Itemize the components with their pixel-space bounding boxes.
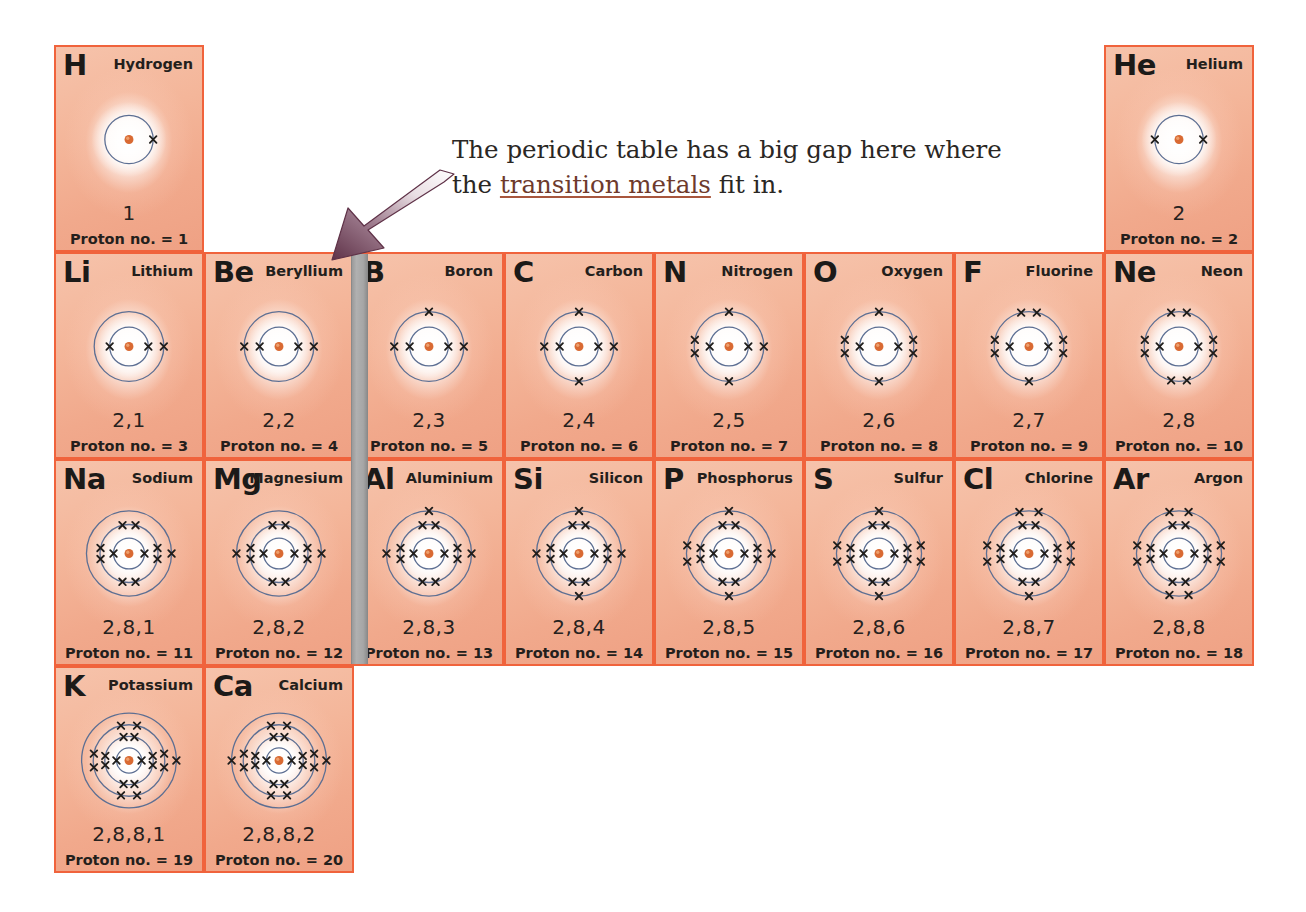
electron-shell-diagram <box>56 288 202 405</box>
electron-configuration: 2,8,4 <box>506 615 652 639</box>
annotation-text: The periodic table has a big gap here wh… <box>452 132 1052 202</box>
electron-shell-diagram <box>506 495 652 612</box>
element-cell-al[interactable]: AlAluminium2,8,3Proton no. = 13 <box>354 459 504 666</box>
electron-configuration: 2,8,7 <box>956 615 1102 639</box>
element-cell-p[interactable]: PPhosphorus2,8,5Proton no. = 15 <box>654 459 804 666</box>
electron-configuration: 2,8,2 <box>206 615 352 639</box>
proton-number: Proton no. = 11 <box>56 645 202 661</box>
pointer-arrow-icon <box>318 168 458 264</box>
element-name: Boron <box>445 263 493 279</box>
proton-number: Proton no. = 16 <box>806 645 952 661</box>
electron-shell-diagram <box>956 288 1102 405</box>
element-cell-si[interactable]: SiSilicon2,8,4Proton no. = 14 <box>504 459 654 666</box>
proton-number: Proton no. = 7 <box>656 438 802 454</box>
electron-configuration: 2,8,8 <box>1106 615 1252 639</box>
element-cell-mg[interactable]: MgMagnesium2,8,2Proton no. = 12 <box>204 459 354 666</box>
proton-number: Proton no. = 8 <box>806 438 952 454</box>
element-cell-ca[interactable]: CaCalcium2,8,8,2Proton no. = 20 <box>204 666 354 873</box>
proton-number: Proton no. = 10 <box>1106 438 1252 454</box>
proton-number: Proton no. = 13 <box>356 645 502 661</box>
element-cell-ne[interactable]: NeNeon2,8Proton no. = 10 <box>1104 252 1254 459</box>
electron-shell-diagram <box>806 495 952 612</box>
electron-configuration: 2,1 <box>56 408 202 432</box>
electron-shell-diagram <box>206 288 352 405</box>
electron-configuration: 2,2 <box>206 408 352 432</box>
element-name: Neon <box>1201 263 1243 279</box>
annotation-line2-after: fit in. <box>711 170 784 199</box>
element-name: Nitrogen <box>721 263 793 279</box>
element-name: Magnesium <box>249 470 343 486</box>
proton-number: Proton no. = 5 <box>356 438 502 454</box>
electron-configuration: 1 <box>56 201 202 225</box>
element-cell-be[interactable]: BeBeryllium2,2Proton no. = 4 <box>204 252 354 459</box>
proton-number: Proton no. = 15 <box>656 645 802 661</box>
element-cell-s[interactable]: SSulfur2,8,6Proton no. = 16 <box>804 459 954 666</box>
proton-number: Proton no. = 18 <box>1106 645 1252 661</box>
electron-configuration: 2,8 <box>1106 408 1252 432</box>
transition-metal-gap-bar <box>351 254 368 664</box>
proton-number: Proton no. = 1 <box>56 231 202 247</box>
element-symbol: Ne <box>1113 255 1156 289</box>
periodic-table-figure: HHydrogen1Proton no. = 1HeHelium2Proton … <box>0 0 1306 912</box>
proton-number: Proton no. = 14 <box>506 645 652 661</box>
transition-metals-link[interactable]: transition metals <box>500 170 711 199</box>
element-symbol: Ar <box>1113 462 1149 496</box>
element-cell-cl[interactable]: ClChlorine2,8,7Proton no. = 17 <box>954 459 1104 666</box>
element-name: Fluorine <box>1026 263 1093 279</box>
proton-number: Proton no. = 2 <box>1106 231 1252 247</box>
electron-configuration: 2 <box>1106 201 1252 225</box>
element-cell-n[interactable]: NNitrogen2,5Proton no. = 7 <box>654 252 804 459</box>
element-symbol: O <box>813 255 837 289</box>
electron-shell-diagram <box>56 702 202 819</box>
element-symbol: Li <box>63 255 90 289</box>
element-cell-k[interactable]: KPotassium2,8,8,1Proton no. = 19 <box>54 666 204 873</box>
electron-configuration: 2,8,1 <box>56 615 202 639</box>
electron-configuration: 2,8,5 <box>656 615 802 639</box>
electron-shell-diagram <box>656 495 802 612</box>
element-cell-c[interactable]: CCarbon2,4Proton no. = 6 <box>504 252 654 459</box>
electron-configuration: 2,8,8,2 <box>206 822 352 846</box>
electron-shell-diagram <box>206 495 352 612</box>
proton-number: Proton no. = 6 <box>506 438 652 454</box>
element-name: Calcium <box>279 677 343 693</box>
electron-shell-diagram <box>506 288 652 405</box>
element-cell-b[interactable]: BBoron2,3Proton no. = 5 <box>354 252 504 459</box>
element-symbol: F <box>963 255 982 289</box>
electron-shell-diagram <box>56 495 202 612</box>
element-cell-ar[interactable]: ArArgon2,8,8Proton no. = 18 <box>1104 459 1254 666</box>
electron-shell-diagram <box>1106 495 1252 612</box>
element-name: Sodium <box>132 470 193 486</box>
element-symbol: K <box>63 669 85 703</box>
element-cell-h[interactable]: HHydrogen1Proton no. = 1 <box>54 45 204 252</box>
element-name: Phosphorus <box>697 470 793 486</box>
element-symbol: He <box>1113 48 1156 82</box>
proton-number: Proton no. = 17 <box>956 645 1102 661</box>
element-symbol: Ca <box>213 669 253 703</box>
element-cell-na[interactable]: NaSodium2,8,1Proton no. = 11 <box>54 459 204 666</box>
element-cell-li[interactable]: LiLithium2,1Proton no. = 3 <box>54 252 204 459</box>
proton-number: Proton no. = 19 <box>56 852 202 868</box>
annotation-line1: The periodic table has a big gap here wh… <box>452 135 1002 164</box>
electron-shell-diagram <box>206 702 352 819</box>
electron-shell-diagram <box>56 81 202 198</box>
element-cell-f[interactable]: FFluorine2,7Proton no. = 9 <box>954 252 1104 459</box>
element-name: Carbon <box>585 263 643 279</box>
element-name: Aluminium <box>406 470 493 486</box>
electron-configuration: 2,6 <box>806 408 952 432</box>
element-name: Helium <box>1186 56 1243 72</box>
element-cell-o[interactable]: OOxygen2,6Proton no. = 8 <box>804 252 954 459</box>
electron-shell-diagram <box>356 495 502 612</box>
element-symbol: Si <box>513 462 543 496</box>
element-name: Potassium <box>108 677 193 693</box>
electron-shell-diagram <box>356 288 502 405</box>
element-symbol: P <box>663 462 684 496</box>
proton-number: Proton no. = 12 <box>206 645 352 661</box>
proton-number: Proton no. = 20 <box>206 852 352 868</box>
element-cell-he[interactable]: HeHelium2Proton no. = 2 <box>1104 45 1254 252</box>
electron-shell-diagram <box>656 288 802 405</box>
electron-shell-diagram <box>806 288 952 405</box>
element-name: Beryllium <box>265 263 343 279</box>
electron-configuration: 2,7 <box>956 408 1102 432</box>
element-name: Hydrogen <box>113 56 193 72</box>
element-name: Sulfur <box>893 470 943 486</box>
